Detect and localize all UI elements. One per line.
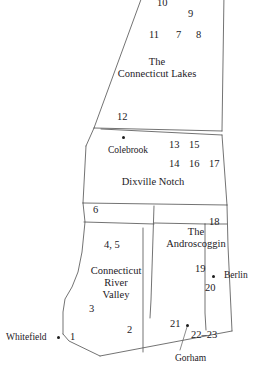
region-number-7: 7 bbox=[176, 29, 181, 41]
region-number-6: 6 bbox=[93, 204, 98, 216]
region-number-22-23: 22–23 bbox=[191, 329, 217, 341]
region-number-17: 17 bbox=[209, 158, 220, 170]
boundary-outer-right-dixville bbox=[222, 135, 227, 205]
city-dot-whitefield bbox=[57, 336, 60, 339]
map-root: The Connecticut Lakes Dixville Notch The… bbox=[0, 0, 257, 379]
gorham-leader-line bbox=[180, 327, 187, 350]
region-number-8: 8 bbox=[196, 29, 201, 41]
region-number-3: 3 bbox=[89, 303, 94, 315]
boundary-dixville-south bbox=[83, 203, 227, 205]
region-number-14: 14 bbox=[169, 158, 180, 170]
region-number-12: 12 bbox=[117, 111, 128, 123]
region-label-line2: Androscoggin bbox=[166, 238, 226, 250]
city-dot-gorham bbox=[186, 324, 189, 327]
boundary-valley-androscoggin bbox=[150, 206, 154, 318]
region-number-13: 13 bbox=[169, 139, 180, 151]
region-label-line2: Connecticut Lakes bbox=[118, 68, 196, 80]
city-dot-berlin bbox=[212, 275, 215, 278]
boundary-outer-left-dixville bbox=[83, 146, 86, 203]
boundary-outer-right-lower bbox=[227, 205, 232, 331]
region-label-line1: The bbox=[166, 226, 226, 238]
boundary-six-south bbox=[84, 222, 154, 224]
boundary-outer-left-twelve bbox=[86, 128, 94, 146]
city-label-gorham: Gorham bbox=[175, 353, 206, 364]
region-number-21: 21 bbox=[170, 318, 181, 330]
city-dot-colebrook bbox=[122, 136, 125, 139]
city-label-colebrook: Colebrook bbox=[108, 145, 148, 156]
boundary-eighteen-west bbox=[154, 223, 205, 224]
region-label-dixville-notch: Dixville Notch bbox=[122, 176, 185, 188]
region-number-11: 11 bbox=[149, 29, 159, 41]
region-label-line2: River bbox=[91, 277, 142, 289]
region-label-line3: Valley bbox=[91, 289, 142, 301]
region-number-16: 16 bbox=[189, 158, 200, 170]
region-number-15: 15 bbox=[189, 139, 200, 151]
boundary-outer-bottom-left bbox=[63, 334, 100, 356]
region-number-20: 20 bbox=[205, 282, 216, 294]
region-number-18: 18 bbox=[209, 216, 220, 228]
region-label-line1: The bbox=[118, 56, 196, 68]
region-label-androscoggin: The Androscoggin bbox=[166, 226, 226, 250]
region-label-connecticut-river-valley: Connecticut River Valley bbox=[91, 265, 142, 300]
boundary-outer-left-six bbox=[63, 203, 85, 334]
region-number-10: 10 bbox=[157, 0, 168, 9]
city-label-berlin: Berlin bbox=[224, 270, 248, 281]
region-number-9: 9 bbox=[188, 8, 193, 20]
region-number-2: 2 bbox=[127, 324, 132, 336]
region-label-line1: Dixville Notch bbox=[122, 176, 185, 188]
region-number-4-5: 4, 5 bbox=[104, 239, 120, 251]
region-number-1: 1 bbox=[70, 331, 75, 343]
city-label-whitefield: Whitefield bbox=[6, 332, 47, 343]
boundary-outer-right-upper bbox=[222, 0, 224, 131]
region-label-connecticut-lakes: The Connecticut Lakes bbox=[118, 56, 196, 80]
region-number-19: 19 bbox=[195, 263, 206, 275]
region-label-line1: Connecticut bbox=[91, 265, 142, 277]
